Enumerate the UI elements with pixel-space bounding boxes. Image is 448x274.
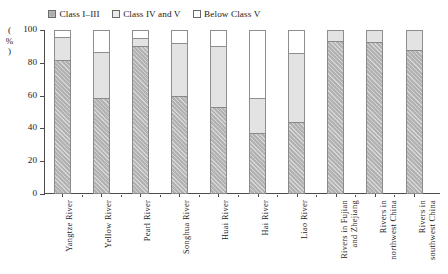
x-tick-minor xyxy=(277,195,278,197)
x-axis-label: Liao River xyxy=(300,200,310,272)
x-tick-minor xyxy=(199,195,200,197)
y-tick-label: 100 xyxy=(23,24,37,35)
x-axis-label-line: Rivers in xyxy=(418,200,427,233)
bar-segment xyxy=(406,50,423,194)
bar-segment xyxy=(210,46,227,107)
bar-segment xyxy=(210,107,227,194)
x-tick xyxy=(258,194,259,197)
bar-segment xyxy=(93,30,110,52)
x-axis-label-line: Yellow River xyxy=(104,200,113,248)
bar-segment xyxy=(54,60,71,194)
bar-segment xyxy=(366,30,383,42)
bar-segment xyxy=(249,98,266,133)
y-tick: 40 xyxy=(40,128,44,129)
stacked-bar-chart: Class I–III Class IV and V Below Class V… xyxy=(0,0,448,274)
legend-label-class-i-iii: Class I–III xyxy=(60,9,100,19)
legend-swatch-class-i-iii xyxy=(48,10,56,18)
bar-segment xyxy=(171,43,188,95)
y-tick-inner xyxy=(41,96,44,97)
x-tick-minor xyxy=(238,195,239,197)
x-axis-label-line: Songhua River xyxy=(182,200,191,254)
x-tick xyxy=(336,194,337,197)
legend-swatch-class-iv-v xyxy=(112,10,120,18)
y-tick-label: 0 xyxy=(32,188,37,199)
x-axis-label-line: Yangtze River xyxy=(65,200,74,252)
bar-segment xyxy=(366,42,383,194)
x-tick-minor xyxy=(316,195,317,197)
plot-area: 020406080100 xyxy=(44,30,440,194)
legend-item-class-iv-v: Class IV and V xyxy=(112,9,181,19)
bar-segment xyxy=(93,98,110,194)
x-tick xyxy=(375,194,376,197)
y-tick-inner xyxy=(41,63,44,64)
y-tick: 20 xyxy=(40,161,44,162)
bar-segment xyxy=(132,30,149,38)
y-tick-inner xyxy=(41,194,44,195)
y-tick: 0 xyxy=(40,194,44,195)
bar-segment xyxy=(249,133,266,194)
x-tick xyxy=(297,194,298,197)
legend-item-class-i-iii: Class I–III xyxy=(48,9,100,19)
x-axis-label-line: southwest China xyxy=(428,200,438,272)
x-axis-label-line: Huai River xyxy=(221,200,230,240)
bar-segment xyxy=(249,30,266,98)
x-tick-minor xyxy=(355,195,356,197)
x-axis-label: Huai River xyxy=(221,200,231,272)
bar-segment xyxy=(171,30,188,43)
x-tick xyxy=(414,194,415,197)
y-tick-label: 40 xyxy=(28,122,37,133)
bar-segment xyxy=(54,30,71,37)
x-axis-label: Hai River xyxy=(261,200,271,272)
x-axis-label-line: Hai River xyxy=(261,200,270,236)
x-tick xyxy=(62,194,63,197)
bar-segment xyxy=(327,41,344,194)
x-tick-minor xyxy=(121,195,122,197)
x-axis-label: Yangtze River xyxy=(65,200,75,272)
x-axis-label-line: Rivers in xyxy=(379,200,388,233)
x-axis-label-line: Pearl River xyxy=(143,200,152,241)
x-tick xyxy=(140,194,141,197)
bar-segment xyxy=(210,30,227,46)
x-axis-label: Pearl River xyxy=(143,200,153,272)
x-axis-label: Rivers innorthwest China xyxy=(379,200,398,272)
legend-swatch-below-class-v xyxy=(193,10,201,18)
y-tick: 100 xyxy=(40,30,44,31)
bar-segment xyxy=(327,30,344,41)
x-axis-label: Songhua River xyxy=(182,200,192,272)
y-tick-inner xyxy=(41,128,44,129)
legend-label-below-class-v: Below Class V xyxy=(204,9,260,19)
y-tick-label: 60 xyxy=(28,90,37,101)
bar-segment xyxy=(288,53,305,122)
x-axis-label-line: and Zhejiang xyxy=(349,200,359,272)
y-tick: 80 xyxy=(40,63,44,64)
x-tick xyxy=(218,194,219,197)
y-tick-inner xyxy=(41,161,44,162)
bar-segment xyxy=(171,96,188,194)
bar-segment xyxy=(54,37,71,60)
x-axis-label-line: Liao River xyxy=(300,200,309,239)
y-axis-label: (%) xyxy=(2,18,16,64)
y-tick-label: 80 xyxy=(28,57,37,68)
x-tick-minor xyxy=(82,195,83,197)
bar-segment xyxy=(406,30,423,50)
bar-segment xyxy=(132,38,149,46)
x-tick-minor xyxy=(394,195,395,197)
x-tick xyxy=(101,194,102,197)
y-axis-line xyxy=(44,30,45,195)
chart-legend: Class I–III Class IV and V Below Class V xyxy=(48,6,348,22)
bar-segment xyxy=(132,46,149,194)
x-tick-minor xyxy=(160,195,161,197)
x-axis-label: Yellow River xyxy=(104,200,114,272)
bar-segment xyxy=(288,30,305,53)
y-tick-inner xyxy=(41,30,44,31)
x-axis-label: Rivers in Fujianand Zhejiang xyxy=(340,200,359,272)
bar-segment xyxy=(288,122,305,194)
bar-segment xyxy=(93,52,110,98)
y-tick-label: 20 xyxy=(28,155,37,166)
x-tick xyxy=(179,194,180,197)
y-tick: 60 xyxy=(40,96,44,97)
legend-item-below-class-v: Below Class V xyxy=(193,9,261,19)
x-axis-label-line: northwest China xyxy=(388,200,398,272)
legend-label-class-iv-v: Class IV and V xyxy=(123,9,180,19)
x-axis-label: Rivers insouthwest China xyxy=(418,200,437,272)
